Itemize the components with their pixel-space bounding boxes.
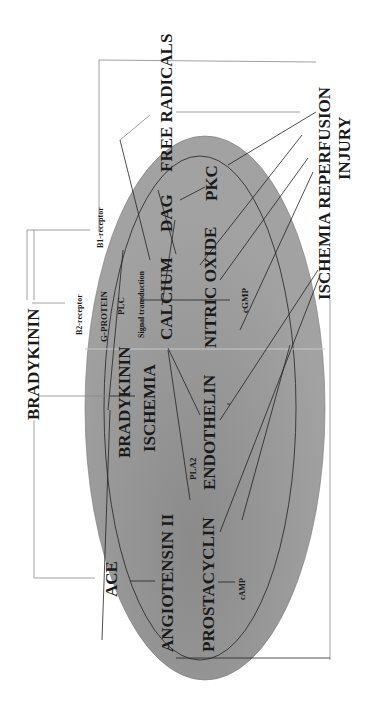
title-injury: INJURY [335, 116, 354, 180]
label-ace: ACE [102, 561, 121, 597]
label-cgmp: cGMP [240, 288, 250, 313]
label-pla2: PLA2 [188, 457, 198, 480]
label-free-radicals: FREE RADICALS [157, 34, 176, 172]
title-ischemia-reperfusion: ISCHEMIA REPERFUSION [315, 86, 334, 300]
label-signal-transduction: Signal transduction [137, 271, 146, 338]
label-camp: cAMP [238, 578, 247, 600]
label-angiotensin-ii: ANGIOTENSIN II [158, 513, 177, 652]
label-b1-receptor: B1-receptor [96, 207, 105, 248]
label-prostacyclin: PROSTACYCLIN [199, 517, 218, 652]
bradykinin-ischemia-diagram: BRADYKININ ISCHEMIA REPERFUSION INJURY F… [0, 0, 374, 728]
label-pkc: PKC [202, 165, 221, 201]
label-plc: PLC [116, 297, 126, 315]
label-ischemia: ISCHEMIA [140, 363, 159, 452]
label-nitric-oxide: NITRIC OXIDE [201, 227, 220, 348]
label-b2-receptor: B2-receptor [75, 294, 84, 335]
label-g-protein: G-PROTEIN [99, 290, 109, 342]
label-endothelin: ENDOTHELIN [200, 374, 219, 490]
label-calcium: CALCIUM [157, 257, 176, 340]
label-bradykinin-node: BRADYKININ [115, 346, 134, 458]
label-dag: DAG [157, 194, 176, 232]
title-bradykinin: BRADYKININ [24, 308, 43, 420]
